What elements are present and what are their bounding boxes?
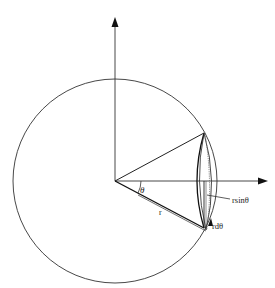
vertical-axis-arrow-icon xyxy=(112,17,119,27)
r-d-theta-label: rdθ xyxy=(212,221,223,231)
theta-label: θ xyxy=(140,185,145,195)
upper-radius-line xyxy=(115,133,204,181)
horizontal-axis-arrow-icon xyxy=(258,178,268,185)
sphere-diagram: θ r rsinθ rdθ xyxy=(0,0,275,288)
r-sin-theta-label: rsinθ xyxy=(232,195,249,205)
radius-r-line xyxy=(115,181,204,228)
radius-r-dr-line xyxy=(138,195,206,231)
r-label: r xyxy=(159,208,162,217)
r-sin-theta-leader xyxy=(207,195,230,199)
zone-band-back xyxy=(204,133,212,230)
